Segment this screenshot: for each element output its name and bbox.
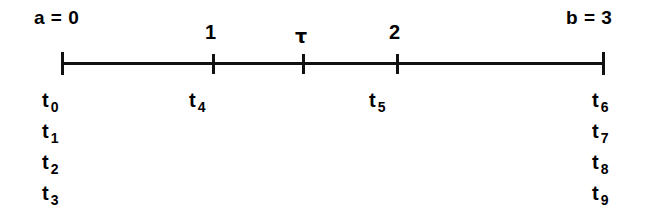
time-label-subscript: 9 [601,192,609,208]
axis-line [62,62,604,65]
time-label-subscript: 2 [51,161,59,177]
time-label-base: t [42,151,49,173]
time-label-subscript: 1 [51,130,59,146]
time-label-subscript: 0 [51,99,59,115]
time-label-t4: t4 [189,90,203,110]
time-label-base: t [189,89,196,111]
time-label-t9: t9 [592,183,606,203]
time-label-base: t [42,89,49,111]
time-label-subscript: 3 [51,192,59,208]
axis-tick-label-2: 2 [389,22,401,42]
time-label-base: t [592,151,599,173]
time-label-t2: t2 [42,152,56,172]
time-label-base: t [42,182,49,204]
time-label-base: t [592,89,599,111]
time-label-base: t [369,89,376,111]
tick-mark-1 [212,54,215,74]
time-label-base: t [42,120,49,142]
time-label-t8: t8 [592,152,606,172]
axis-start-label: a = 0 [34,8,79,27]
time-label-t0: t0 [42,90,56,110]
time-label-subscript: 7 [601,130,609,146]
time-label-subscript: 8 [601,161,609,177]
axis-tick-label-1: 1 [205,22,217,42]
tick-mark-a [61,52,64,75]
time-label-base: t [592,120,599,142]
time-label-t3: t3 [42,183,56,203]
time-label-t5: t5 [369,90,383,110]
time-label-subscript: 6 [601,99,609,115]
time-label-t1: t1 [42,121,56,141]
time-label-subscript: 4 [198,99,206,115]
time-label-t7: t7 [592,121,606,141]
time-label-subscript: 5 [378,99,386,115]
number-line-figure: a = 0 1 τ 2 b = 3 t0 t1 t2 t3 t4 t5 t6 t… [0,0,652,221]
time-label-t6: t6 [592,90,606,110]
axis-tick-label-tau: τ [295,27,308,46]
tick-mark-b [602,52,605,75]
tick-mark-2 [396,54,399,74]
axis-end-label: b = 3 [566,8,612,27]
time-label-base: t [592,182,599,204]
tick-mark-tau [302,54,305,74]
